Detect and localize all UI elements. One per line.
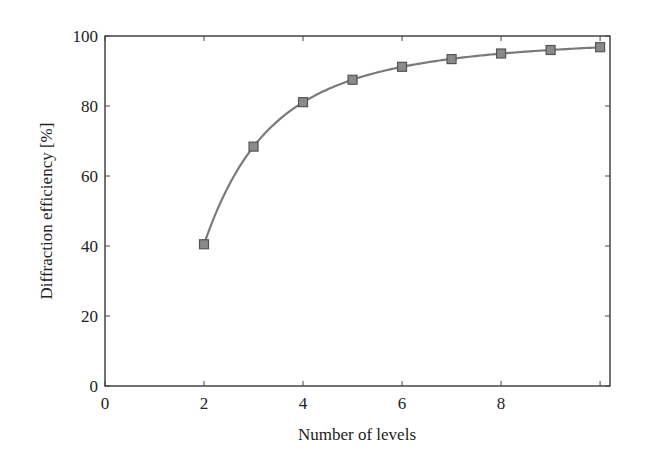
chart: 02468 020406080100 Number of levels Diff… [0,0,650,460]
data-markers [200,43,605,249]
x-axis-ticks: 02468 [101,36,600,413]
x-tick-label: 0 [101,394,110,413]
data-point-marker [497,49,506,58]
data-point-marker [299,98,308,107]
y-tick-label: 60 [81,167,98,186]
data-point-marker [348,75,357,84]
x-axis-label: Number of levels [298,425,416,444]
data-line [204,47,600,244]
x-tick-label: 2 [200,394,209,413]
y-tick-label: 80 [81,97,98,116]
data-point-marker [249,142,258,151]
y-tick-label: 100 [73,27,99,46]
y-axis-ticks: 020406080100 [73,27,611,396]
y-tick-label: 40 [81,237,98,256]
y-tick-label: 20 [81,307,98,326]
y-axis-label: Diffraction efficiency [%] [37,123,56,300]
y-tick-label: 0 [90,377,99,396]
data-point-marker [596,43,605,52]
data-point-marker [546,46,555,55]
plot-frame [105,36,610,386]
x-tick-label: 8 [497,394,506,413]
x-tick-label: 6 [398,394,407,413]
x-tick-label: 4 [299,394,308,413]
data-point-marker [447,55,456,64]
data-point-marker [398,62,407,71]
data-point-marker [200,240,209,249]
